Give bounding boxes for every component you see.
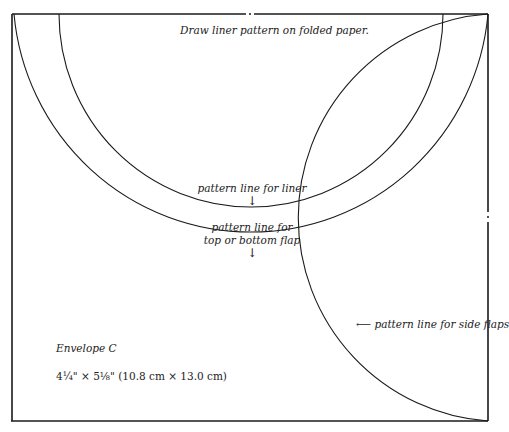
instruction-text: Draw liner pattern on folded paper. (180, 24, 369, 37)
flap-label-line1: pattern line for (190, 221, 314, 234)
side-flaps-label-text: pattern line for side flaps (374, 318, 509, 330)
liner-label: pattern line for liner ↓ (196, 182, 308, 207)
side-flap-pattern-arc (298, 14, 488, 421)
envelope-dimensions: 4¼" × 5⅛" (10.8 cm × 13.0 cm) (56, 370, 227, 382)
envelope-name: Envelope C (56, 342, 117, 355)
arrow-down-icon: ↓ (196, 195, 308, 207)
paper-border (11, 14, 488, 421)
liner-pattern-arc (59, 14, 443, 207)
fold-mark-right (487, 216, 489, 218)
fold-mark-top (249, 13, 251, 15)
arrow-down-icon: ↓ (190, 247, 314, 259)
side-flaps-label: ⟵ pattern line for side flaps (356, 318, 509, 331)
liner-label-text: pattern line for liner (197, 182, 306, 194)
arrow-left-icon: ⟵ (356, 318, 371, 330)
flap-label: pattern line for top or bottom flap ↓ (190, 221, 314, 259)
